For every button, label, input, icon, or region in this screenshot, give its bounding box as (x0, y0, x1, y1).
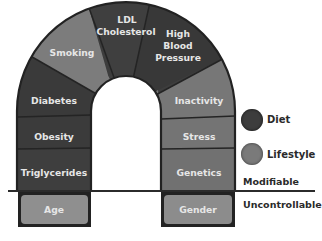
label-ldl-1: LDL (117, 14, 136, 25)
label-triglycerides: Triglycerides (21, 167, 88, 178)
label-obesity: Obesity (34, 131, 74, 142)
label-ldl-2: Cholesterol (96, 26, 155, 37)
label-diabetes: Diabetes (31, 95, 77, 106)
legend-diet-label: Diet (267, 114, 290, 125)
legend-lifestyle-swatch (241, 143, 263, 165)
modifiable-divider (8, 190, 315, 192)
legend-lifestyle-label: Lifestyle (267, 149, 315, 160)
label-smoking: Smoking (50, 47, 95, 58)
label-hbp-3: Pressure (155, 52, 201, 63)
label-age: Age (44, 204, 64, 215)
legend-diet-swatch (241, 109, 263, 131)
label-inactivity: Inactivity (175, 95, 224, 106)
label-hbp-1: High (166, 28, 190, 39)
label-stress: Stress (183, 131, 216, 142)
zone-label-uncontrollable: Uncontrollable (243, 199, 322, 210)
label-hbp-2: Blood (163, 40, 192, 51)
label-gender: Gender (179, 204, 217, 215)
label-genetics: Genetics (177, 167, 223, 178)
zone-label-modifiable: Modifiable (243, 176, 299, 187)
